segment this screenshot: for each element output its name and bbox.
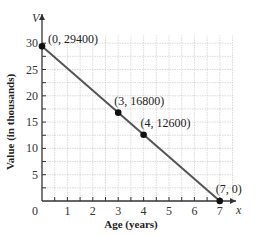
data-point <box>39 43 46 50</box>
y-tick-label: 15 <box>26 115 38 129</box>
x-axis-title: Age (years) <box>104 218 158 231</box>
data-point <box>217 198 224 205</box>
y-axis-arrow-icon <box>39 14 45 20</box>
x-tick-label: 2 <box>90 204 96 218</box>
x-tick-label: 0 <box>32 204 38 218</box>
x-variable-label: x <box>235 203 242 217</box>
y-tick-label: 10 <box>26 141 38 155</box>
data-points: (0, 29400)(3, 16800)(4, 12600)(7, 0) <box>39 32 242 204</box>
y-tick-label: 5 <box>32 168 38 182</box>
data-point-label: (4, 12600) <box>141 116 191 130</box>
grid-lines <box>42 35 233 201</box>
x-tick-label: 5 <box>166 204 172 218</box>
x-tick-label: 3 <box>115 204 121 218</box>
x-tick-label: 7 <box>217 204 223 218</box>
x-tick-label: 1 <box>64 204 70 218</box>
y-variable-label: V <box>32 11 41 25</box>
depreciation-chart: 0123456751015202530 (0, 29400)(3, 16800)… <box>0 0 262 236</box>
data-point <box>115 109 122 116</box>
y-axis-title: Value (in thousands) <box>4 74 17 171</box>
data-point-label: (7, 0) <box>216 182 242 196</box>
data-point-label: (0, 29400) <box>48 32 98 46</box>
x-tick-label: 4 <box>141 204 147 218</box>
y-tick-label: 20 <box>26 89 38 103</box>
y-tick-label: 30 <box>26 36 38 50</box>
axis-ticks: 0123456751015202530 <box>26 36 223 218</box>
y-tick-label: 25 <box>26 63 38 77</box>
data-point-label: (3, 16800) <box>114 94 164 108</box>
data-point <box>140 131 147 138</box>
x-tick-label: 6 <box>191 204 197 218</box>
